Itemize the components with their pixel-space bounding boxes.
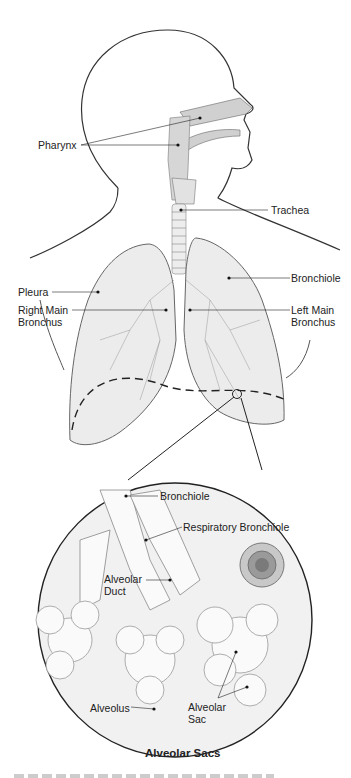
label-right-main-line1: Right Main [18,304,68,316]
label-right-main-bronchus: Right Main Bronchus [18,304,68,328]
cutoff-text-line [14,774,274,778]
left-lung [184,238,284,424]
oral-airway [185,129,240,150]
inset-label-alveolar-duct-line2: Duct [104,585,142,597]
label-left-main-line2: Bronchus [291,316,335,328]
alveolar-cross-section [240,543,284,587]
inset-label-alveolar-duct-line1: Alveolar [104,573,142,585]
inset-label-respiratory-bronchiole: Respiratory Bronchiole [183,521,289,533]
label-pleura: Pleura [18,286,48,298]
inset-label-bronchiole: Bronchiole [160,490,210,502]
inset-label-alveolar-duct: Alveolar Duct [104,573,142,597]
inset-label-alveolar-sac-line1: Alveolar [188,701,226,713]
label-left-main-line1: Left Main [291,304,335,316]
label-bronchiole: Bronchiole [291,272,341,284]
trachea [172,204,186,274]
nasal-cavity [180,98,252,126]
inset-label-alveolar-sac: Alveolar Sac [188,701,226,725]
inset-label-alveolus: Alveolus [90,702,130,714]
figure-caption: Alveolar Sacs [145,747,220,759]
label-right-main-line2: Bronchus [18,316,68,328]
label-pharynx: Pharynx [38,139,77,151]
label-trachea: Trachea [271,204,309,216]
anatomy-illustration [0,0,351,778]
inset-label-alveolar-sac-line2: Sac [188,713,226,725]
label-left-main-bronchus: Left Main Bronchus [291,304,335,328]
left-shoulder [30,188,118,258]
